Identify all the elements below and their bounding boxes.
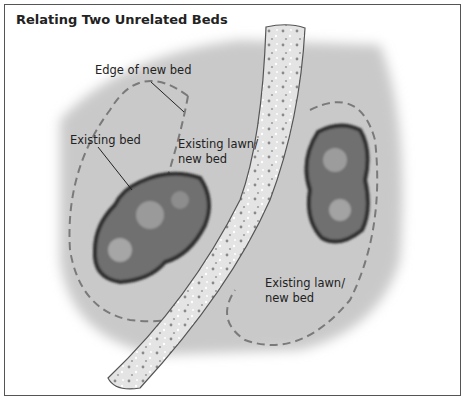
figure-title: Relating Two Unrelated Beds xyxy=(16,12,228,27)
label-lawn-right-line1: Existing lawn/ xyxy=(265,276,345,291)
label-lawn-left-line1: Existing lawn/ xyxy=(178,137,258,152)
label-edge-of-new-bed: Edge of new bed xyxy=(95,63,191,78)
label-lawn-left: Existing lawn/ new bed xyxy=(178,137,258,167)
garden-illustration xyxy=(0,0,466,398)
label-lawn-right-line2: new bed xyxy=(265,291,345,306)
label-lawn-left-line2: new bed xyxy=(178,152,258,167)
label-lawn-right: Existing lawn/ new bed xyxy=(265,276,345,306)
existing-bed-right xyxy=(306,125,367,241)
label-existing-bed: Existing bed xyxy=(70,133,141,148)
